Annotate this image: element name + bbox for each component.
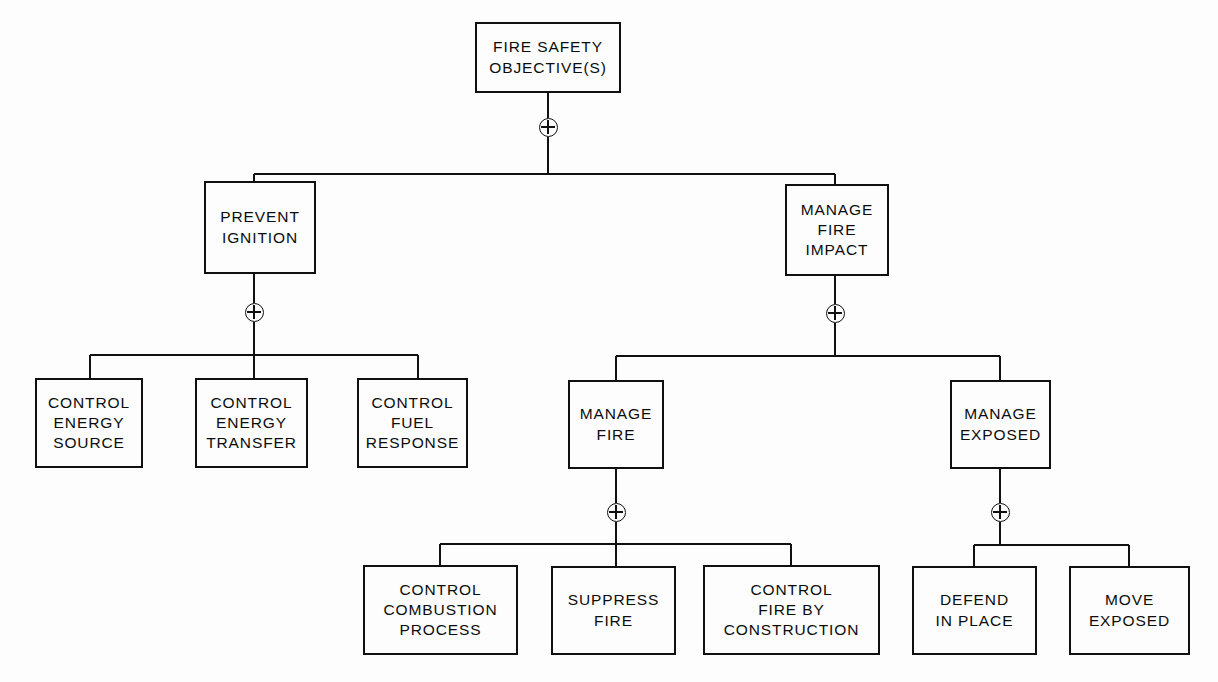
node-label-prevent-ignition: PREVENT IGNITION	[220, 207, 300, 247]
node-suppress-fire[interactable]: SUPPRESS FIRE	[551, 566, 676, 655]
node-manage-fire-impact[interactable]: MANAGE FIRE IMPACT	[785, 184, 889, 276]
node-label-control-energy-transfer: CONTROL ENERGY TRANSFER	[206, 393, 297, 453]
node-defend-in-place[interactable]: DEFEND IN PLACE	[912, 566, 1037, 655]
node-control-fuel-response[interactable]: CONTROL FUEL RESPONSE	[357, 378, 468, 468]
node-root[interactable]: FIRE SAFETY OBJECTIVE(S)	[475, 22, 621, 93]
node-label-control-combustion-process: CONTROL COMBUSTION PROCESS	[383, 580, 497, 640]
fire-safety-tree-diagram: FIRE SAFETY OBJECTIVE(S)PREVENT IGNITION…	[0, 0, 1218, 682]
node-label-defend-in-place: DEFEND IN PLACE	[936, 590, 1014, 630]
node-manage-exposed[interactable]: MANAGE EXPOSED	[950, 380, 1051, 469]
node-label-manage-fire-impact: MANAGE FIRE IMPACT	[801, 200, 874, 260]
node-control-energy-transfer[interactable]: CONTROL ENERGY TRANSFER	[195, 378, 308, 468]
node-move-exposed[interactable]: MOVE EXPOSED	[1069, 566, 1190, 655]
node-label-control-fuel-response: CONTROL FUEL RESPONSE	[366, 393, 459, 453]
node-label-root: FIRE SAFETY OBJECTIVE(S)	[489, 37, 607, 77]
node-label-manage-exposed: MANAGE EXPOSED	[960, 404, 1041, 444]
circled-plus-icon-prevent-ignition	[245, 303, 264, 322]
node-label-move-exposed: MOVE EXPOSED	[1089, 590, 1170, 630]
node-label-control-fire-by-construction: CONTROL FIRE BY CONSTRUCTION	[724, 580, 860, 640]
node-label-control-energy-source: CONTROL ENERGY SOURCE	[48, 393, 130, 453]
node-manage-fire[interactable]: MANAGE FIRE	[568, 380, 664, 469]
node-prevent-ignition[interactable]: PREVENT IGNITION	[204, 181, 316, 274]
circled-plus-icon-manage-fire	[607, 503, 626, 522]
circled-plus-icon-root	[539, 118, 558, 137]
node-label-manage-fire: MANAGE FIRE	[580, 404, 653, 444]
node-control-energy-source[interactable]: CONTROL ENERGY SOURCE	[35, 378, 143, 468]
node-label-suppress-fire: SUPPRESS FIRE	[568, 590, 660, 630]
node-control-combustion-process[interactable]: CONTROL COMBUSTION PROCESS	[363, 565, 518, 655]
node-control-fire-by-construction[interactable]: CONTROL FIRE BY CONSTRUCTION	[703, 565, 880, 655]
circled-plus-icon-manage-exposed	[991, 503, 1010, 522]
circled-plus-icon-manage-fire-impact	[826, 304, 845, 323]
